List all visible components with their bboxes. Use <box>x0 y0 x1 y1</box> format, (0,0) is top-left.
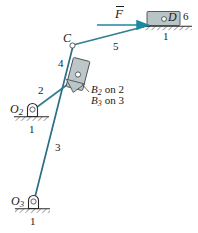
mechanism-figure: F D 6 1 C 5 4 2 3 B2on 2 B3on 3 O2 1 O3 … <box>0 0 198 233</box>
pivot-o2-sub: 2 <box>19 107 23 117</box>
link-6-label: 6 <box>183 11 189 22</box>
pivot-o3-label: O3 <box>11 195 24 209</box>
pin-joint-d <box>162 17 167 22</box>
coincident-point-b3-label: B3on 3 <box>91 95 124 108</box>
coincident-b3-base: B <box>91 94 98 106</box>
pivot-o2-base: O <box>10 102 19 116</box>
link-5-label: 5 <box>113 41 119 52</box>
pin-joint-o2 <box>30 107 35 112</box>
ground-link-1-label-o3: 1 <box>30 216 36 227</box>
ground-link-1-label-top: 1 <box>163 31 169 42</box>
pivot-o2-label: O2 <box>10 103 23 117</box>
pivot-o3-sub: 3 <box>20 199 24 209</box>
pivot-o3-base: O <box>11 194 20 208</box>
link-3-member <box>34 46 73 201</box>
coincident-b3-tail: on 3 <box>102 94 124 106</box>
pin-joint-b <box>75 72 80 77</box>
force-label-f: F <box>115 7 123 20</box>
point-c-label: C <box>63 32 71 44</box>
force-label-text: F <box>115 6 123 21</box>
point-d-label: D <box>168 11 177 23</box>
ground-link-1-label-o2: 1 <box>29 124 35 135</box>
link-3-label: 3 <box>55 142 61 153</box>
link-2-label: 2 <box>38 85 44 96</box>
pin-joint-o3 <box>31 199 36 204</box>
force-label-overbar <box>116 6 124 7</box>
link-4-label: 4 <box>58 58 64 69</box>
